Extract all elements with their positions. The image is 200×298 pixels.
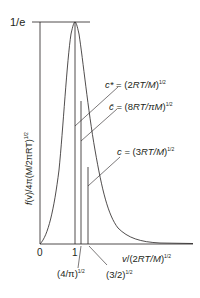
distribution-curve	[40, 22, 193, 244]
maxwell-distribution-chart: 1/e 0 1 (4/π)1/2 (3/2)1/2 v/(2RT/M)1/2 f…	[0, 0, 200, 298]
y-max-label: 1/e	[10, 16, 25, 28]
four-pi-leader	[78, 246, 81, 268]
three-half-leader	[89, 246, 107, 265]
x-axis-label: v/(2RT/M)1/2	[122, 253, 171, 264]
x-tick-four-pi: (4/π)1/2	[57, 268, 85, 279]
y-axis-label: f(v)/4π(M/2πRT)1/2	[23, 132, 34, 205]
c-star-annotation: c* = (2RT/M)1/2	[105, 79, 166, 90]
x-tick-zero: 0	[37, 247, 43, 258]
x-tick-one: 1	[72, 247, 78, 258]
c-rms-annotation: c = (3RT/M)1/2	[117, 146, 174, 157]
c-bar-leader	[81, 109, 117, 141]
c-bar-annotation: c̄ = (8RT/πM)1/2	[109, 101, 173, 112]
c-rms-leader	[88, 157, 120, 186]
x-tick-three-half: (3/2)1/2	[106, 269, 133, 280]
